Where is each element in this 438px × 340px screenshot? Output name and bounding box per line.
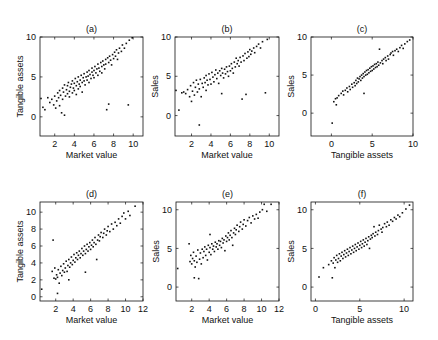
y-axis-label: Tangible assets <box>15 55 25 118</box>
data-point <box>222 238 224 240</box>
data-point <box>345 90 347 92</box>
data-point <box>95 244 97 246</box>
data-point <box>360 241 362 243</box>
data-point <box>369 248 371 250</box>
data-point <box>390 219 392 221</box>
data-point <box>222 72 224 74</box>
x-axis-label: Market value <box>202 315 254 325</box>
data-point <box>366 70 368 72</box>
y-tick-label: 10 <box>26 207 36 217</box>
data-point <box>347 91 349 93</box>
data-point <box>205 75 207 77</box>
data-point <box>374 64 376 66</box>
data-point <box>64 84 66 86</box>
data-point <box>57 293 59 295</box>
data-point <box>114 51 116 53</box>
data-point <box>218 83 220 85</box>
x-tick-label: 0 <box>329 139 334 149</box>
data-point <box>382 227 384 229</box>
data-point <box>357 242 359 244</box>
data-point <box>375 67 377 69</box>
data-point <box>221 247 223 249</box>
data-point <box>226 66 228 68</box>
data-point <box>245 94 247 96</box>
data-point <box>190 255 192 257</box>
data-point <box>335 259 337 261</box>
x-tick-label: 5 <box>357 304 362 314</box>
data-point <box>365 74 367 76</box>
data-point <box>405 208 407 210</box>
data-point <box>74 261 76 263</box>
data-point <box>323 267 325 269</box>
data-point <box>221 93 223 95</box>
data-point <box>100 62 102 64</box>
data-point <box>86 71 88 73</box>
data-point <box>392 51 394 53</box>
data-point <box>386 226 388 228</box>
y-axis-label: Sales <box>286 75 296 98</box>
data-point <box>395 218 397 220</box>
data-point <box>87 250 89 252</box>
y-tick-label: 5 <box>166 71 171 81</box>
data-point <box>88 70 90 72</box>
data-point <box>223 239 225 241</box>
data-point <box>194 94 196 96</box>
data-point <box>357 77 359 79</box>
data-point <box>247 220 249 222</box>
data-point <box>358 78 360 80</box>
data-point <box>78 88 80 90</box>
data-point <box>55 107 57 109</box>
data-point <box>209 247 211 249</box>
data-point <box>55 278 57 280</box>
data-point <box>191 263 193 265</box>
data-point <box>65 267 67 269</box>
y-tick-label: 5 <box>302 244 307 254</box>
y-tick-label: 0 <box>167 282 172 292</box>
data-point <box>240 221 242 223</box>
data-point <box>73 87 75 89</box>
data-point <box>85 271 87 273</box>
y-tick-label: 5 <box>302 70 307 80</box>
data-point <box>203 251 205 253</box>
data-point <box>97 75 99 77</box>
y-tick-label: 5 <box>167 244 172 254</box>
data-point <box>211 243 213 245</box>
data-point <box>354 248 356 250</box>
data-point <box>70 87 72 89</box>
data-point <box>86 244 88 246</box>
data-point <box>67 93 69 95</box>
data-point <box>388 58 390 60</box>
data-point <box>267 39 269 41</box>
data-point <box>71 256 73 258</box>
data-point <box>122 44 124 46</box>
data-point <box>68 279 70 281</box>
data-point <box>104 228 106 230</box>
data-point <box>342 258 344 260</box>
data-point <box>40 98 42 100</box>
data-point <box>402 48 404 50</box>
data-point <box>76 252 78 254</box>
x-tick-label: 6 <box>88 304 93 314</box>
data-point <box>199 88 201 90</box>
data-point <box>393 55 395 57</box>
data-point <box>346 252 348 254</box>
data-point <box>270 204 272 206</box>
data-point <box>334 267 336 269</box>
x-tick-label: 12 <box>274 304 284 314</box>
data-point <box>204 246 206 248</box>
data-point <box>93 70 95 72</box>
data-point <box>193 252 195 254</box>
data-point <box>256 46 258 48</box>
data-point <box>358 248 360 250</box>
data-point <box>181 92 183 94</box>
data-point <box>385 57 387 59</box>
data-point <box>214 251 216 253</box>
data-point <box>95 72 97 74</box>
data-point <box>61 275 63 277</box>
data-point <box>233 72 235 74</box>
data-point <box>235 234 237 236</box>
data-point <box>75 257 77 259</box>
data-point <box>380 62 382 64</box>
data-point <box>367 69 369 71</box>
data-point <box>237 60 239 62</box>
